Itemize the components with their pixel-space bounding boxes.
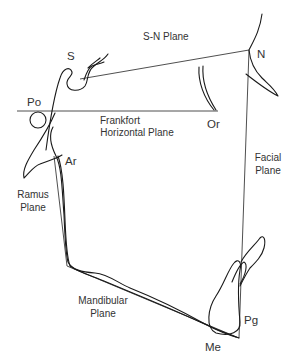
sella-turcica-outline — [46, 54, 108, 150]
plane-label-frankfort-line1: Frankfort — [100, 115, 140, 126]
plane-label-sn: S-N Plane — [143, 31, 189, 42]
incisor-outline — [240, 237, 265, 286]
landmark-label-s: S — [67, 50, 75, 62]
mastoid-outline — [24, 113, 62, 178]
sn-plane-line — [80, 50, 249, 79]
landmark-label-n: N — [257, 48, 265, 60]
plane-label-mandibular-line1: Mandibular — [78, 295, 128, 306]
plane-label-ramus-line1: Ramus — [17, 189, 49, 200]
plane-label-mandibular-line2: Plane — [90, 308, 116, 319]
facial-plane-line — [239, 50, 249, 338]
plane-label-facial-line2: Plane — [255, 165, 281, 176]
landmark-label-po: Po — [27, 96, 41, 108]
cephalometric-diagram: S N Po Or Ar Pg Me S-N Plane Frankfort H… — [0, 0, 300, 362]
plane-label-facial-line1: Facial — [255, 152, 282, 163]
landmark-label-ar: Ar — [65, 155, 77, 167]
symphysis-outline — [209, 261, 241, 335]
landmark-label-pg: Pg — [244, 314, 258, 326]
landmark-label-me: Me — [205, 341, 221, 353]
porion-circle — [30, 112, 46, 128]
plane-label-ramus-line2: Plane — [20, 202, 46, 213]
plane-label-frankfort-line2: Horizontal Plane — [100, 127, 174, 138]
orbit-outline — [199, 66, 216, 110]
mandible-inner-outline — [58, 156, 236, 337]
landmark-label-or: Or — [207, 118, 220, 130]
